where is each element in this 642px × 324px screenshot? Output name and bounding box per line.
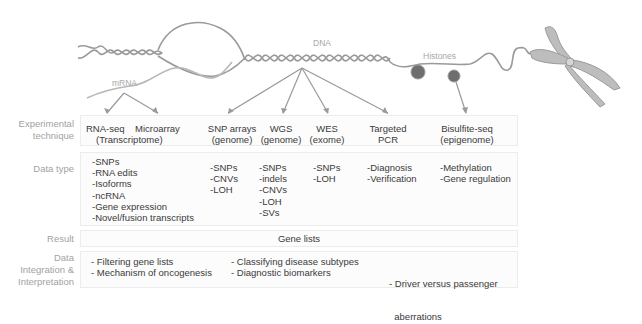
row-label-integration: Data Integration & Interpretation xyxy=(0,252,74,288)
technique-targeted-pcr: TargetedPCR xyxy=(363,123,413,145)
histones-label: Histones xyxy=(423,51,456,61)
integration-col-1: - Filtering gene lists - Mechanism of on… xyxy=(91,256,212,278)
technique-wes: WES(exome) xyxy=(302,123,352,145)
data-type-targeted-pcr: -Diagnosis -Verification xyxy=(367,162,417,184)
integration-col-3: - Driver versus passenger aberrations xyxy=(389,256,498,324)
mrna-label: mRNA xyxy=(112,78,137,88)
integration-col-2: - Classifying disease subtypes - Diagnos… xyxy=(231,256,359,278)
technique-microarray: Microarray xyxy=(135,123,180,134)
row-label-data-type: Data type xyxy=(0,163,74,175)
data-type-wes: -SNPs -LOH xyxy=(313,162,340,184)
row-label-technique: Experimental technique xyxy=(0,118,74,142)
technique-bisulfite-seq: Bisulfite-seq(epigenome) xyxy=(432,123,502,145)
dna-label: DNA xyxy=(313,38,331,48)
dna-illustration xyxy=(0,0,642,115)
data-type-transcriptome: -SNPs -RNA edits -Isoforms -ncRNA -Gene … xyxy=(92,156,194,223)
data-type-snp-arrays: -SNPs -CNVs -LOH xyxy=(210,162,238,196)
technique-rna-seq: RNA-seq xyxy=(86,123,125,134)
technique-transcriptome: (Transcriptome) xyxy=(96,134,163,145)
row-label-result: Result xyxy=(0,233,74,245)
technique-wgs: WGS(genome) xyxy=(256,123,306,145)
technique-snp-arrays: SNP arrays(genome) xyxy=(200,123,264,145)
data-type-wgs: -SNPs -indels -CNVs -LOH -SVs xyxy=(259,162,287,218)
result-gene-lists: Gene lists xyxy=(80,233,518,244)
data-type-bisulfite: -Methylation -Gene regulation xyxy=(440,162,511,184)
